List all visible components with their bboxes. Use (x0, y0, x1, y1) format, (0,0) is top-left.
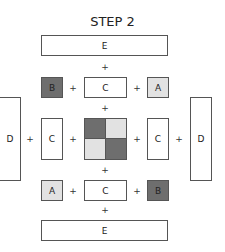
box-c-bottom: C (84, 180, 127, 201)
plus-sign: + (100, 62, 110, 72)
plus-sign: + (174, 134, 184, 144)
box-d-left: D (0, 97, 21, 181)
box-a-bottom-left: A (41, 180, 63, 201)
plus-sign: + (132, 134, 142, 144)
plus-sign: + (100, 103, 110, 113)
plus-sign: + (25, 134, 35, 144)
plus-sign: + (100, 205, 110, 215)
box-c-right: C (147, 118, 169, 160)
box-a-top-right: A (147, 77, 169, 98)
box-b-bottom-right: B (147, 180, 169, 201)
box-b-top-left: B (41, 77, 63, 98)
grid-cell-dark (106, 139, 127, 159)
box-c-left: C (41, 118, 63, 160)
box-d-right: D (190, 97, 212, 181)
box-e-top: E (41, 35, 168, 56)
diagram-title: STEP 2 (0, 14, 225, 29)
plus-sign: + (68, 83, 78, 93)
center-checker-grid (84, 118, 127, 160)
grid-cell-light (106, 119, 127, 139)
plus-sign: + (68, 134, 78, 144)
box-c-top: C (84, 77, 127, 98)
plus-sign: + (132, 186, 142, 196)
grid-cell-light (85, 139, 106, 159)
plus-sign: + (100, 165, 110, 175)
box-e-bottom: E (41, 220, 168, 241)
plus-sign: + (132, 83, 142, 93)
plus-sign: + (68, 186, 78, 196)
grid-cell-dark (85, 119, 106, 139)
